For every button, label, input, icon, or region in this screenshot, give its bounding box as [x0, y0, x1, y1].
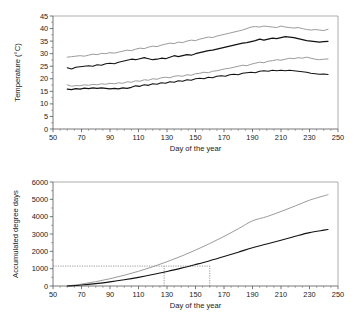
x-tick-label: 50 [49, 133, 57, 142]
y-tick-label: 0 [44, 125, 48, 134]
x-tick-label: 210 [275, 290, 287, 299]
y-tick-label: 30 [40, 49, 48, 58]
x-tick-label: 70 [77, 290, 85, 299]
figure-root: 051015202530354045 507090110130150170190… [0, 0, 363, 330]
degree-days-series-group [67, 195, 328, 286]
y-tick-label: 1000 [32, 264, 48, 273]
x-tick-label: 190 [246, 133, 258, 142]
x-tick-label: 190 [246, 290, 258, 299]
x-tick-label: 50 [49, 290, 57, 299]
series-line-gray-accumulated-degree-days [67, 195, 328, 286]
temperature-plot-frame [53, 16, 338, 129]
series-line-black-upper-maximum-temperature [67, 37, 328, 69]
y-tick-label: 40 [40, 24, 48, 33]
y-tick-label: 15 [40, 87, 48, 96]
temperature-chart-svg: 051015202530354045 507090110130150170190… [0, 0, 363, 165]
y-tick-label: 45 [40, 12, 48, 21]
x-tick-label: 150 [189, 133, 201, 142]
y-tick-label: 10 [40, 99, 48, 108]
series-line-gray-upper-maximum-temperature [67, 26, 328, 57]
degree-days-plot-frame [53, 182, 338, 286]
series-line-gray-lower-minimum-temperature [67, 57, 328, 86]
temperature-x-tick-labels: 507090110130150170190210230250 [49, 133, 344, 142]
y-tick-label: 5 [44, 112, 48, 121]
temperature-y-axis-title: Temperature (°C) [13, 43, 22, 102]
degree-days-reference-lines [53, 266, 210, 286]
degree-days-y-axis-title: Accumulated degree days [11, 190, 20, 278]
y-tick-label: 5000 [32, 195, 48, 204]
y-tick-label: 2000 [32, 247, 48, 256]
x-tick-label: 170 [218, 133, 230, 142]
y-tick-label: 35 [40, 37, 48, 46]
x-tick-label: 130 [161, 133, 173, 142]
temperature-series-group [67, 26, 328, 90]
y-tick-label: 3000 [32, 230, 48, 239]
degree-days-x-axis-title: Day of the year [170, 301, 222, 310]
x-tick-label: 90 [106, 133, 114, 142]
x-tick-label: 70 [77, 133, 85, 142]
degree-days-chart-panel: 0100020003000400050006000 50709011013015… [0, 160, 363, 330]
y-tick-label: 4000 [32, 212, 48, 221]
degree-days-y-tick-labels: 0100020003000400050006000 [32, 178, 48, 291]
x-tick-label: 110 [133, 290, 145, 299]
temperature-y-tick-labels: 051015202530354045 [40, 12, 48, 134]
y-tick-label: 0 [44, 282, 48, 291]
temperature-x-axis-title: Day of the year [170, 144, 222, 153]
y-tick-label: 20 [40, 74, 48, 83]
x-tick-label: 250 [332, 290, 344, 299]
temperature-chart-panel: 051015202530354045 507090110130150170190… [0, 0, 363, 165]
x-tick-label: 150 [189, 290, 201, 299]
x-tick-label: 230 [303, 133, 315, 142]
series-line-black-accumulated-degree-days [67, 229, 328, 286]
x-tick-label: 90 [106, 290, 114, 299]
degree-days-chart-svg: 0100020003000400050006000 50709011013015… [0, 160, 363, 330]
x-tick-label: 170 [218, 290, 230, 299]
degree-days-x-tick-labels: 507090110130150170190210230250 [49, 290, 344, 299]
x-tick-label: 250 [332, 133, 344, 142]
x-tick-label: 130 [161, 290, 173, 299]
x-tick-label: 110 [133, 133, 145, 142]
x-tick-label: 210 [275, 133, 287, 142]
y-tick-label: 25 [40, 62, 48, 71]
degree-days-axis-ticks [50, 182, 338, 289]
x-tick-label: 230 [303, 290, 315, 299]
y-tick-label: 6000 [32, 178, 48, 187]
